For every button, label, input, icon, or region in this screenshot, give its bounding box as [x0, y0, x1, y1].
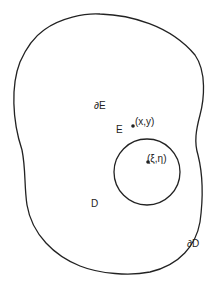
domain-diagram: (x,y) (ξ,η) E ∂E D ∂D: [0, 0, 215, 281]
point-xi-eta-label: (ξ,η): [147, 153, 166, 165]
inner-boundary-circle: [114, 139, 180, 205]
outer-boundary-curve: [14, 14, 204, 274]
outer-boundary-label: ∂D: [187, 238, 199, 249]
inner-boundary-label: ∂E: [94, 100, 106, 111]
inner-region-label: E: [116, 124, 123, 135]
outer-region-label: D: [91, 198, 98, 209]
point-xy-label: (x,y): [135, 116, 154, 127]
